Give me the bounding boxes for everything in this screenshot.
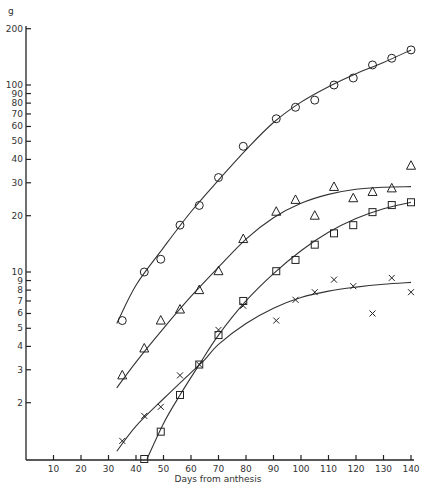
y-tick-label: 5 [17, 323, 23, 333]
point-circles [272, 115, 280, 123]
curve-triangles [117, 187, 411, 388]
x-tick-label: 110 [320, 464, 337, 474]
y-tick-label: 200 [6, 24, 23, 34]
y-tick-label: 60 [12, 121, 24, 131]
y-tick-label: 7 [17, 296, 23, 306]
point-triangles [387, 183, 396, 192]
x-axis-title: Days from anthesis [175, 474, 262, 484]
x-tick-label: 80 [240, 464, 252, 474]
y-tick-label: 2 [17, 398, 23, 408]
x-tick-label: 60 [185, 464, 197, 474]
curve-crosses [117, 282, 411, 451]
x-tick-label: 70 [213, 464, 225, 474]
point-squares [141, 456, 148, 463]
y-tick-label: 9 [17, 276, 23, 286]
point-crosses [370, 310, 376, 316]
y-tick-label: 20 [12, 211, 24, 221]
x-tick-label: 50 [158, 464, 170, 474]
point-triangles [407, 161, 416, 170]
point-circles [157, 255, 165, 263]
point-triangles [118, 370, 127, 379]
fitted-curves [117, 50, 411, 459]
y-tick-label: 40 [12, 154, 24, 164]
point-circles [311, 96, 319, 104]
y-tick-label: 90 [12, 89, 24, 99]
y-tick-label: 3 [17, 365, 23, 375]
y-tick-label: 50 [12, 136, 24, 146]
y-tick-label: 6 [17, 308, 23, 318]
point-crosses [350, 283, 356, 289]
curve-squares [147, 202, 411, 459]
point-circles [140, 268, 148, 276]
x-axis-ticks: 102030405060708090100110120130140 [48, 455, 420, 474]
point-circles [369, 61, 377, 69]
growth-chart: 20010090807060504030201098765432 1020304… [0, 0, 426, 488]
y-axis-ticks: 20010090807060504030201098765432 [6, 24, 31, 408]
point-crosses [408, 289, 414, 295]
x-tick-label: 10 [48, 464, 60, 474]
point-triangles [349, 193, 358, 202]
point-crosses [389, 275, 395, 281]
y-tick-label: 70 [12, 109, 24, 119]
point-crosses [273, 318, 279, 324]
point-crosses [331, 277, 337, 283]
point-circles [239, 142, 247, 150]
point-triangles [195, 285, 204, 294]
point-triangles [156, 316, 165, 325]
x-tick-label: 90 [268, 464, 280, 474]
y-tick-label: 8 [17, 285, 23, 295]
point-crosses [196, 362, 202, 368]
point-circles [407, 46, 415, 54]
x-tick-label: 20 [75, 464, 87, 474]
y-tick-label: 80 [12, 98, 24, 108]
point-triangles [291, 195, 300, 204]
point-crosses [177, 372, 183, 378]
x-tick-label: 30 [103, 464, 115, 474]
y-tick-label: 30 [12, 178, 24, 188]
x-tick-label: 100 [292, 464, 309, 474]
x-tick-label: 40 [130, 464, 142, 474]
point-crosses [158, 404, 164, 410]
point-triangles [330, 182, 339, 191]
axes [26, 26, 414, 460]
y-axis-unit-label: g [8, 6, 14, 16]
point-squares [350, 222, 357, 229]
x-tick-label: 140 [402, 464, 419, 474]
x-tick-label: 120 [347, 464, 364, 474]
x-tick-label: 130 [375, 464, 392, 474]
y-tick-label: 4 [17, 341, 23, 351]
point-triangles [310, 211, 319, 220]
point-circles [118, 317, 126, 325]
